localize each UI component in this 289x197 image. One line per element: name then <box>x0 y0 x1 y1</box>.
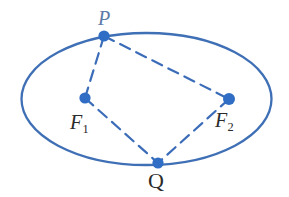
segment-p-f2 <box>104 36 229 99</box>
diagram-canvas <box>0 0 289 197</box>
point-label-f1: F1 <box>70 112 88 132</box>
point-p <box>98 30 109 41</box>
point-label-f2-subscript: 2 <box>227 120 233 134</box>
point-label-f1-subscript: 1 <box>82 122 88 136</box>
segment-f1-q <box>85 98 158 163</box>
segment-group <box>85 36 229 163</box>
point-label-f2-base: F <box>215 109 227 131</box>
segment-p-f1 <box>85 36 104 98</box>
point-group <box>79 30 235 168</box>
ellipse-foci-diagram: P F1 F2 Q <box>0 0 289 197</box>
point-f2 <box>223 93 235 105</box>
point-label-p: P <box>98 8 110 28</box>
point-label-f2: F2 <box>215 110 233 130</box>
point-label-q: Q <box>148 170 164 192</box>
point-q <box>152 157 163 168</box>
point-label-f1-base: F <box>70 111 82 133</box>
point-f1 <box>79 92 90 103</box>
